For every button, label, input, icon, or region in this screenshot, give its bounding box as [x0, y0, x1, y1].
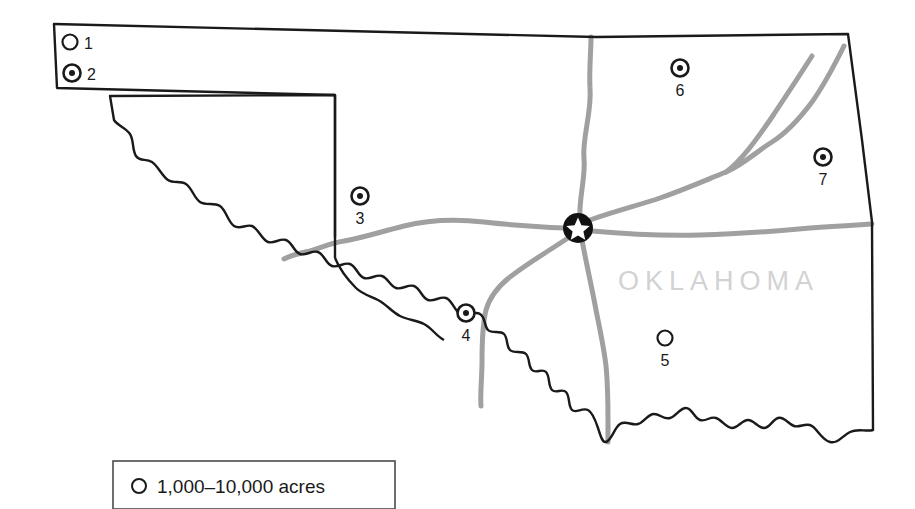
road-east-from-capital — [592, 224, 872, 235]
site-marker-5[interactable]: 5 — [658, 331, 673, 370]
state-name-label: OKLAHOMA — [618, 266, 819, 296]
road-northeast-from-capital — [590, 46, 844, 220]
site-marker-6[interactable]: 6 — [672, 60, 689, 100]
legend-label: 1,000–10,000 acres — [157, 476, 325, 497]
site-marker-5-label: 5 — [661, 352, 670, 369]
road-south-from-capital — [582, 240, 608, 442]
site-marker-6-label: 6 — [676, 82, 685, 99]
dot-circle-center — [69, 70, 75, 76]
dot-circle-center — [463, 310, 469, 316]
site-marker-4-label: 4 — [462, 327, 471, 344]
site-marker-3-label: 3 — [356, 210, 365, 227]
site-marker-2[interactable]: 2 — [64, 65, 97, 84]
open-circle-icon — [63, 35, 78, 50]
road-southwest-from-capital — [481, 238, 568, 406]
site-marker-7-label: 7 — [819, 171, 828, 188]
site-marker-1-label: 1 — [84, 35, 93, 52]
panhandle-bottom-edge — [54, 24, 335, 95]
road-northeast-spur — [726, 56, 812, 172]
site-marker-2-label: 2 — [87, 66, 96, 83]
dot-circle-center — [820, 154, 826, 160]
site-marker-1[interactable]: 1 — [63, 35, 94, 53]
capital-star-marker[interactable] — [563, 213, 593, 243]
legend-box: 1,000–10,000 acres — [113, 461, 395, 509]
road-west-from-capital — [306, 220, 566, 252]
dot-circle-center — [677, 65, 683, 71]
legend-open-circle-icon — [132, 479, 146, 493]
site-marker-4[interactable]: 4 — [458, 305, 475, 345]
site-marker-3[interactable]: 3 — [352, 188, 369, 228]
site-marker-7[interactable]: 7 — [815, 149, 832, 189]
dot-circle-center — [357, 193, 363, 199]
road-north-from-capital — [580, 37, 591, 222]
oklahoma-map: OKLAHOMA 1 2 3 4 — [0, 0, 915, 509]
open-circle-icon — [658, 331, 673, 346]
map-canvas: OKLAHOMA 1 2 3 4 — [0, 0, 915, 509]
